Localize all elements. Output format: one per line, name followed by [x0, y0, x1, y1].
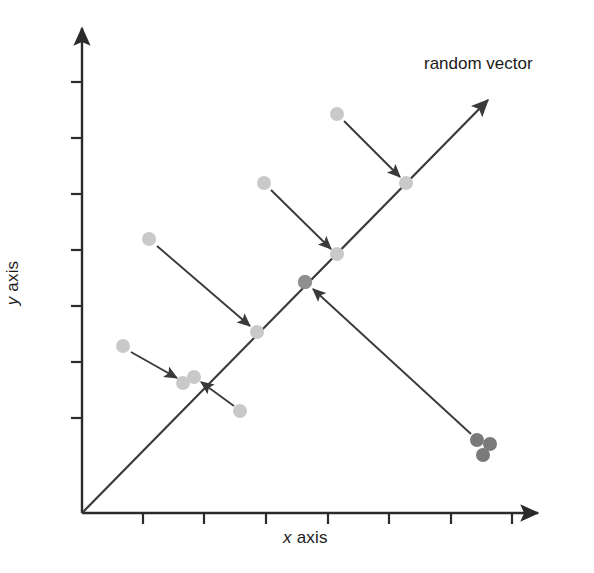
- random-vector-arrow: [82, 100, 488, 513]
- projected-point-p4: [330, 247, 344, 261]
- x-axis-label: x axis: [283, 528, 328, 548]
- projected-point-p5: [399, 176, 413, 190]
- data-point-p3: [142, 232, 156, 246]
- projected-point-p2: [187, 370, 201, 384]
- data-point-p5: [330, 107, 344, 121]
- data-point-p4: [257, 176, 271, 190]
- y-axis-label-variable: y: [3, 297, 22, 306]
- data-point-p2: [233, 404, 247, 418]
- extra-data-point-2: [298, 275, 312, 289]
- data-point-p6: [470, 433, 484, 447]
- projection-arrow-p6: [313, 289, 471, 434]
- projection-arrow-p3: [157, 246, 250, 326]
- data-points-group: [116, 107, 497, 462]
- projection-arrow-p5: [344, 121, 400, 177]
- y-axis-label-text: axis: [3, 261, 22, 297]
- x-axis-label-variable: x: [283, 528, 292, 547]
- extra-data-point-1: [476, 448, 490, 462]
- projection-arrow-p2: [201, 382, 234, 406]
- data-point-p1: [116, 339, 130, 353]
- y-axis-label: y axis: [3, 261, 23, 306]
- projected-point-p3: [250, 325, 264, 339]
- x-axis-label-text: axis: [292, 528, 328, 547]
- projection-arrow-p4: [271, 190, 331, 249]
- figure-canvas: random vector x axis y axis: [0, 0, 594, 573]
- scatter-plot-svg: [0, 0, 594, 573]
- random-vector-annotation-label: random vector: [424, 54, 533, 74]
- random-vector-line: [82, 100, 488, 513]
- projection-arrow-p1: [131, 352, 177, 378]
